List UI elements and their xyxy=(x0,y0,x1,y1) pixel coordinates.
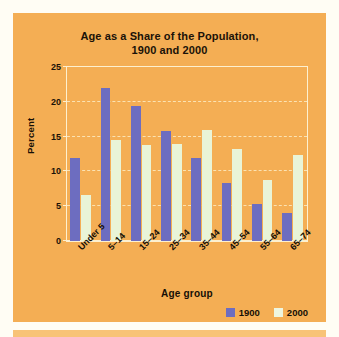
bar-1900-45-54 xyxy=(222,183,232,241)
plot-area: 0510152025 Under 55–1415–2425–3435–4445–… xyxy=(66,66,308,242)
bar-1900-35-44 xyxy=(191,158,201,241)
chart-title-line-2: 1900 and 2000 xyxy=(13,43,326,57)
chart-legend: 19002000 xyxy=(13,307,326,318)
y-tick-label: 15 xyxy=(51,132,61,142)
decorative-bottom-band xyxy=(13,330,326,337)
y-axis-label: Percent xyxy=(25,118,36,154)
bar-2000-5-14 xyxy=(111,140,121,241)
bar-group xyxy=(158,67,188,241)
legend-swatch-2000 xyxy=(274,308,283,317)
chart-panel: Age as a Share of the Population, 1900 a… xyxy=(13,13,326,322)
bar-group xyxy=(97,67,127,241)
bar-group xyxy=(249,67,279,241)
bar-1900-15-24 xyxy=(131,106,141,241)
legend-swatch-1900 xyxy=(226,308,235,317)
bar-group xyxy=(279,67,309,241)
bar-1900-65-74 xyxy=(282,213,292,241)
bar-2000-25-34 xyxy=(172,144,182,241)
bar-2000-65-74 xyxy=(293,155,303,241)
bar-group xyxy=(67,67,97,241)
bar-1900-55-64 xyxy=(252,204,262,241)
x-axis-label: Age group xyxy=(66,288,308,299)
y-tick-label: 25 xyxy=(51,62,61,72)
legend-label-2000: 2000 xyxy=(287,307,308,318)
y-tick-label: 5 xyxy=(56,201,61,211)
bar-series-group xyxy=(67,67,307,241)
bar-1900-under-5 xyxy=(70,158,80,241)
chart-title: Age as a Share of the Population, 1900 a… xyxy=(13,29,326,57)
y-tick-label: 0 xyxy=(56,236,61,246)
bar-2000-15-24 xyxy=(142,145,152,241)
legend-label-1900: 1900 xyxy=(239,307,260,318)
bar-2000-45-54 xyxy=(232,149,242,241)
bar-group xyxy=(218,67,248,241)
legend-item-1900[interactable]: 1900 xyxy=(226,307,260,318)
y-tick-label: 20 xyxy=(51,97,61,107)
bar-2000-35-44 xyxy=(202,130,212,241)
bar-1900-5-14 xyxy=(101,88,111,241)
chart-title-line-1: Age as a Share of the Population, xyxy=(13,29,326,43)
bar-group xyxy=(128,67,158,241)
bar-group xyxy=(188,67,218,241)
bar-1900-25-34 xyxy=(161,131,171,241)
legend-item-2000[interactable]: 2000 xyxy=(274,307,308,318)
chart-page: Age as a Share of the Population, 1900 a… xyxy=(0,0,339,337)
y-tick-label: 10 xyxy=(51,166,61,176)
